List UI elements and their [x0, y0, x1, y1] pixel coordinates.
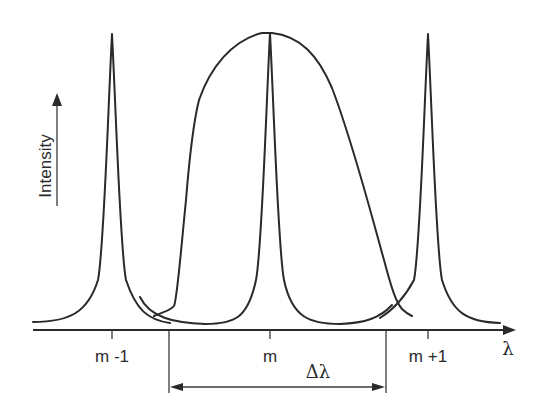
tick-label-m-plus-1: m +1	[409, 347, 447, 366]
x-axis-ticks	[112, 330, 428, 339]
x-axis-label: λ	[502, 338, 513, 359]
delta-lambda-bracket	[169, 331, 386, 393]
delta-lambda-label: Δλ	[306, 361, 330, 382]
x-axis	[33, 325, 516, 335]
interference-spectrum-diagram: Intensity λ m -1 m m +1 Δλ	[0, 0, 535, 417]
tick-label-m: m	[263, 347, 277, 366]
y-axis-label: Intensity	[36, 134, 55, 198]
peak-m-plus-1	[380, 34, 500, 323]
tick-label-m-minus-1: m -1	[95, 347, 129, 366]
